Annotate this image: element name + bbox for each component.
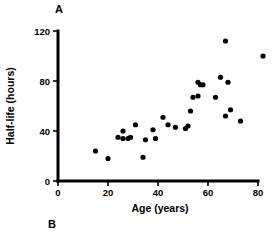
data-point [260,53,265,58]
tick-marks [53,31,258,186]
data-point [105,156,110,161]
data-point [160,115,165,120]
y-tick-label: 120 [34,26,50,37]
x-tick-label: 0 [55,187,60,198]
data-point [120,136,125,141]
x-tick-label: 40 [153,187,164,198]
data-point [228,107,233,112]
data-point [223,38,228,43]
figure-container: A 04080120020406080 Age (years) Half-lif… [0,0,280,235]
data-point [225,80,230,85]
data-point [185,123,190,128]
data-point [200,82,205,87]
data-point [150,127,155,132]
y-tick-label: 40 [39,126,50,137]
axes [58,31,258,181]
data-point [223,113,228,118]
data-point [218,75,223,80]
scatter-plot: 04080120020406080 Age (years) Half-life … [0,0,280,235]
y-tick-label: 0 [45,176,50,187]
data-point [173,125,178,130]
data-point [238,118,243,123]
data-point [120,128,125,133]
x-axis-title: Age (years) [131,202,188,214]
data-point [213,95,218,100]
data-point [190,95,195,100]
data-point [128,135,133,140]
data-point [153,136,158,141]
y-axis-title: Half-life (hours) [4,67,16,145]
data-point [195,93,200,98]
x-tick-label: 60 [203,187,214,198]
data-points [93,38,266,161]
y-tick-label: 80 [39,76,50,87]
x-tick-label: 80 [253,187,264,198]
data-point [133,122,138,127]
data-point [165,122,170,127]
data-point [93,148,98,153]
panel-label-b: B [48,218,56,230]
data-point [143,137,148,142]
data-point [140,155,145,160]
data-point [188,108,193,113]
data-point [115,135,120,140]
x-tick-label: 20 [103,187,114,198]
